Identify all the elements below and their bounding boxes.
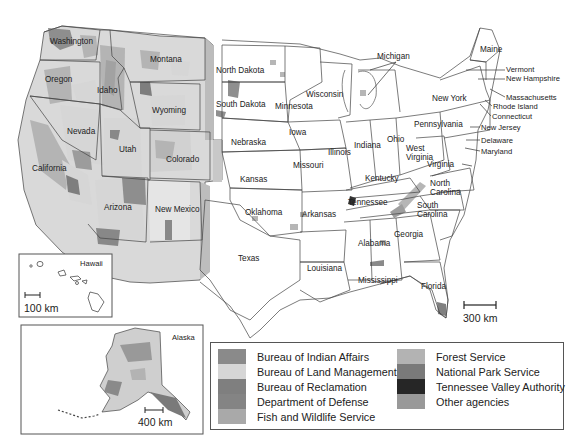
label-florida: Florida xyxy=(421,282,446,291)
legend-column-left: Bureau of Indian Affairs Bureau of Land … xyxy=(218,349,397,424)
label-missouri: Missouri xyxy=(293,161,324,170)
label-alabama: Alabama xyxy=(358,239,391,248)
legend-swatch xyxy=(218,364,246,379)
label-rhode-island: Rhode Island xyxy=(493,102,538,111)
legend-label: Fish and Wildlife Service xyxy=(257,411,375,423)
legend-label: Department of Defense xyxy=(257,396,369,408)
legend-swatch xyxy=(218,349,246,364)
legend-label: National Park Service xyxy=(436,366,540,378)
hawaii-inset: Hawaii 100 km xyxy=(19,254,112,317)
legend-swatch xyxy=(397,379,425,394)
label-maryland: Maryland xyxy=(481,147,512,156)
legend-label: Bureau of Reclamation xyxy=(257,381,367,393)
label-wisconsin: Wisconsin xyxy=(306,90,344,99)
label-oregon: Oregon xyxy=(45,75,73,84)
label-arkansas: Arkansas xyxy=(302,210,336,219)
label-north-carolina-1: North xyxy=(430,179,450,188)
legend-swatch xyxy=(218,379,246,394)
label-maine: Maine xyxy=(480,45,503,54)
label-kentucky: Kentucky xyxy=(365,174,400,183)
label-indiana: Indiana xyxy=(354,141,381,150)
alaska-inset: Alaska 400 km xyxy=(21,325,203,434)
label-oklahoma: Oklahoma xyxy=(245,208,283,217)
label-colorado: Colorado xyxy=(166,155,200,164)
label-south-carolina-1: South xyxy=(417,201,439,210)
legend-label: Other agencies xyxy=(436,396,509,408)
legend-item-fish-wildlife: Fish and Wildlife Service xyxy=(218,409,397,424)
label-pennsylvania: Pennsylvania xyxy=(414,120,463,129)
label-montana: Montana xyxy=(150,55,182,64)
label-minnesota: Minnesota xyxy=(275,102,313,111)
scale-label-alaska: 400 km xyxy=(138,416,173,428)
label-wyoming: Wyoming xyxy=(152,106,186,115)
label-massachusetts: Massachusetts xyxy=(506,93,557,102)
legend-label: Forest Service xyxy=(436,351,506,363)
label-south-dakota: South Dakota xyxy=(216,100,266,109)
label-michigan: Michigan xyxy=(377,52,410,61)
legend-item-other: Other agencies xyxy=(397,394,565,409)
label-idaho: Idaho xyxy=(97,86,118,95)
label-vermont: Vermont xyxy=(506,65,535,74)
label-california: California xyxy=(32,164,67,173)
legend-swatch xyxy=(397,349,425,364)
label-arizona: Arizona xyxy=(104,203,132,212)
legend-swatch xyxy=(218,394,246,409)
label-west-virginia-1: West xyxy=(406,144,425,153)
map-legend: Bureau of Indian Affairs Bureau of Land … xyxy=(210,342,564,430)
label-tennessee: Tennessee xyxy=(348,198,388,207)
label-utah: Utah xyxy=(119,145,137,154)
scale-label-contiguous: 300 km xyxy=(463,312,498,324)
hawaii-title: Hawaii xyxy=(80,259,103,268)
label-west-virginia-2: Virginia xyxy=(406,153,434,162)
legend-label: Bureau of Indian Affairs xyxy=(257,351,369,363)
legend-item-tva: Tennessee Valley Authority xyxy=(397,379,565,394)
label-new-york: New York xyxy=(432,94,467,103)
label-new-jersey: New Jersey xyxy=(481,123,521,132)
label-north-dakota: North Dakota xyxy=(216,66,265,75)
legend-item-forest-service: Forest Service xyxy=(397,349,565,364)
label-ohio: Ohio xyxy=(387,135,405,144)
label-connecticut: Connecticut xyxy=(492,112,533,121)
label-louisiana: Louisiana xyxy=(307,264,342,273)
label-delaware: Delaware xyxy=(481,136,513,145)
legend-label: Tennessee Valley Authority xyxy=(436,381,565,393)
legend-column-right: Forest Service National Park Service Ten… xyxy=(397,349,565,409)
label-texas: Texas xyxy=(238,254,259,263)
legend-item-national-park: National Park Service xyxy=(397,364,565,379)
label-north-carolina-2: Carolina xyxy=(430,188,461,197)
legend-swatch xyxy=(397,394,425,409)
label-kansas: Kansas xyxy=(240,175,267,184)
legend-swatch xyxy=(397,364,425,379)
legend-item-defense: Department of Defense xyxy=(218,394,397,409)
alaska-title: Alaska xyxy=(172,333,196,342)
label-new-mexico: New Mexico xyxy=(155,205,200,214)
label-iowa: Iowa xyxy=(289,128,307,137)
label-georgia: Georgia xyxy=(394,230,424,239)
label-nevada: Nevada xyxy=(67,127,96,136)
legend-item-bia: Bureau of Indian Affairs xyxy=(218,349,397,364)
label-south-carolina-2: Carolina xyxy=(417,210,448,219)
legend-item-blm: Bureau of Land Management xyxy=(218,364,397,379)
legend-label: Bureau of Land Management xyxy=(257,366,397,378)
label-washington: Washington xyxy=(50,37,93,46)
label-illinois: Illinois xyxy=(328,148,351,157)
label-nebraska: Nebraska xyxy=(231,138,266,147)
scale-label-hawaii: 100 km xyxy=(24,302,59,314)
label-mississippi: Mississippi xyxy=(358,276,398,285)
scale-bar-contiguous: 300 km xyxy=(463,301,498,324)
legend-swatch xyxy=(218,409,246,424)
legend-item-reclamation: Bureau of Reclamation xyxy=(218,379,397,394)
label-new-hampshire: New Hampshire xyxy=(506,74,560,83)
